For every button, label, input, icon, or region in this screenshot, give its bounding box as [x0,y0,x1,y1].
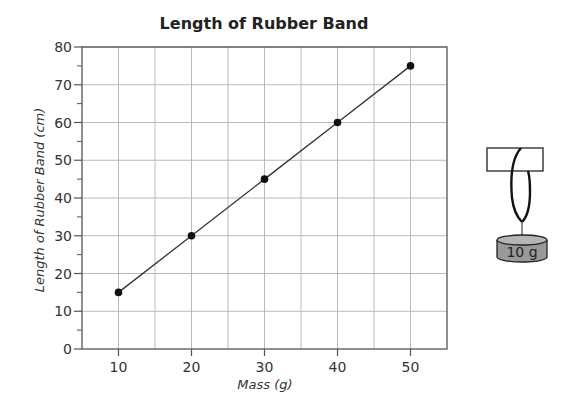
data-point [188,232,196,240]
gridlines [82,47,447,349]
data-point [115,289,123,297]
x-tick-label: 30 [256,359,274,375]
rubber-band-illustration: 10 g [487,148,547,262]
x-axis-ticks: 1020304050 [110,349,420,375]
weight-label: 10 g [506,244,537,260]
x-axis-label: Mass (g) [237,377,292,392]
y-tick-label: 40 [54,190,72,206]
data-point [334,119,342,127]
data-point [261,175,269,183]
y-tick-label: 50 [54,152,72,168]
chart-title: Length of Rubber Band [160,14,369,33]
y-tick-label: 80 [54,39,72,55]
data-point [407,62,415,70]
line-chart: Length of Rubber Band 01020304050607080 … [0,0,570,411]
y-tick-label: 0 [63,341,72,357]
x-tick-label: 40 [329,359,347,375]
x-tick-label: 10 [110,359,128,375]
y-tick-label: 60 [54,115,72,131]
x-tick-label: 50 [402,359,420,375]
x-tick-label: 20 [183,359,201,375]
y-axis-label: Length of Rubber Band (cm) [32,108,47,293]
y-tick-label: 70 [54,77,72,93]
y-axis-ticks: 01020304050607080 [54,39,82,357]
y-tick-label: 20 [54,266,72,282]
y-tick-label: 10 [54,303,72,319]
rubber-band-back [522,171,530,222]
y-tick-label: 30 [54,228,72,244]
